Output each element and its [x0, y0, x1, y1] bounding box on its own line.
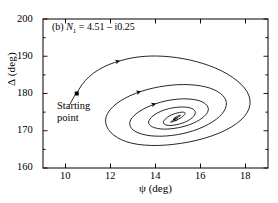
xtick-label-14: 14: [150, 170, 161, 181]
starting-point-label-line1: Starting: [57, 100, 90, 112]
y-axis-label: Δ (deg): [5, 39, 17, 99]
ytick-label-170: 170: [17, 124, 33, 135]
ytick-label-200: 200: [17, 13, 33, 24]
starting-point-label: Starting point: [57, 100, 90, 124]
xtick-label-16: 16: [195, 170, 206, 181]
xtick-label-18: 18: [240, 170, 251, 181]
ytick-label-180: 180: [17, 87, 33, 98]
panel-label: (b): [52, 21, 64, 32]
figure-panel: 200 190 180 170 160 10 12 14 16 18 Δ (de…: [0, 0, 278, 203]
direction-arrow-3: [151, 101, 157, 107]
trajectory-curve: [77, 56, 250, 146]
phase-portrait-plot: [0, 0, 278, 203]
annotation-value: = 4.51 – i0.25: [79, 21, 135, 32]
annotation-subscript: 1: [73, 27, 77, 35]
x-axis-label: ψ (deg): [43, 182, 268, 194]
direction-arrow-1: [115, 58, 121, 64]
direction-arrow-2: [136, 89, 142, 95]
panel-annotation: (b) N1 = 4.51 – i0.25: [52, 21, 135, 35]
annotation-symbol: N: [66, 21, 73, 32]
xtick-label-12: 12: [105, 170, 116, 181]
ytick-label-190: 190: [17, 50, 33, 61]
ytick-label-160: 160: [17, 161, 33, 172]
xtick-label-10: 10: [60, 170, 71, 181]
starting-point-label-line2: point: [57, 112, 90, 124]
